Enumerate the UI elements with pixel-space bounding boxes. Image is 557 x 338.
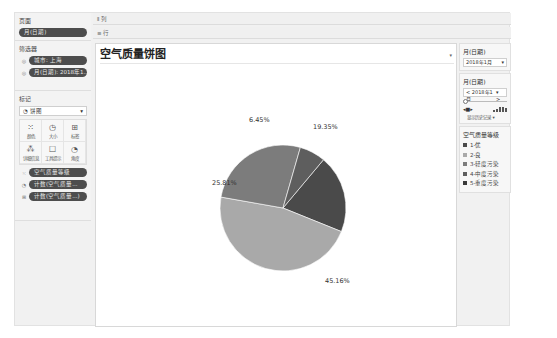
mark-field[interactable]: ◔ 计数(空气质量... [19,180,87,189]
tooltip-icon: ☐ [49,145,56,154]
pie-chart [96,44,458,328]
legend-swatch-icon [463,143,467,147]
legend-swatch-icon [463,162,467,166]
mark-field[interactable]: ⊞ 计数(空气质量...) [19,192,87,201]
angle-button[interactable]: ◔ 角度 [64,142,86,164]
prev-icon[interactable]: < [466,89,470,95]
field-pill[interactable]: 空气质量等级 [29,168,87,177]
color-icon: ⁙ [27,123,34,132]
playback-controls: ◂■▸ [463,106,507,112]
legend-swatch-icon [463,172,467,176]
filter-bullet-icon: ◎ [19,58,29,64]
columns-icon: ⫴ [97,16,99,22]
chevron-down-icon: ▾ [501,59,504,66]
chevron-down-icon: ▾ [80,107,83,115]
detail-button[interactable]: ⁂ 详细信息 [20,142,42,164]
legend-item[interactable]: 5-重度污染 [463,179,507,187]
legend-swatch-icon [463,153,467,157]
size-icon: ◷ [49,123,56,132]
filter-item[interactable]: ◎ 城市: 上海 [19,56,87,65]
mark-type-select[interactable]: ◔ 饼图 ▾ [19,106,87,116]
legend-item[interactable]: 4-中度污染 [463,170,507,178]
month-stepper[interactable]: < 2018年1月 ▾ > [463,88,507,97]
rows-shelf[interactable]: ≡ 行 [93,27,511,39]
legend-item[interactable]: 2-良 [463,151,507,159]
angle-field-icon: ◔ [19,182,29,188]
month-filter-dropdown-card: 月(日期) 2018年1月 ▾ [459,43,511,71]
marks-title: 标记 [19,94,87,103]
chart-canvas: 空气质量饼图 ▾ 19.35% 45.16% 25.81% 6.45% [95,43,457,327]
angle-icon: ◔ [71,145,78,154]
rows-icon: ≡ [97,30,102,36]
filter-item[interactable]: ◎ 月(日期): 2018年1... [19,68,87,77]
legend-label: 1-优 [470,141,481,149]
pie-label: 19.35% [313,123,338,131]
show-history-toggle[interactable]: 显示历史记录 ▾ [463,114,507,120]
detail-icon: ⁂ [27,145,35,154]
mark-field[interactable]: ⁙ 空气质量等级 [19,168,87,177]
label-field-icon: ⊞ [19,194,29,200]
label-icon: ⊞ [71,123,78,132]
legend-label: 3-轻度污染 [470,160,499,168]
month-slider[interactable] [463,99,507,104]
legend-items: 1-优2-良3-轻度污染4-中度污染5-重度污染 [463,141,507,187]
history-bars-icon [493,107,507,112]
legend-item[interactable]: 1-优 [463,141,507,149]
marks-card: 标记 ◔ 饼图 ▾ ⁙ 颜色 ◷ 大小 ⊞ 标签 ⁂ [15,91,91,221]
month-dropdown[interactable]: 2018年1月 ▾ [463,58,507,67]
pie-label: 6.45% [249,116,270,124]
filters-title: 筛选器 [19,44,87,53]
legend-title: 空气质量等级 [463,130,507,139]
playback-buttons[interactable]: ◂■▸ [463,106,473,112]
filters-card: 筛选器 ◎ 城市: 上海 ◎ 月(日期): 2018年1... [15,41,91,91]
pie-label: 45.16% [325,277,350,285]
tableau-workspace: 页面 月(日期) 筛选器 ◎ 城市: 上海 ◎ 月(日期): 2018年1...… [14,12,510,326]
pages-card: 页面 月(日期) [15,13,91,41]
legend-label: 4-中度污染 [470,170,499,178]
field-pill[interactable]: 计数(空气质量... [29,180,87,189]
filter-bullet-icon: ◎ [19,70,29,76]
legend-label: 2-良 [470,151,481,159]
color-button[interactable]: ⁙ 颜色 [20,120,42,142]
pages-title: 页面 [19,16,87,25]
size-button[interactable]: ◷ 大小 [42,120,64,142]
chevron-down-icon: ▾ [496,89,499,95]
right-panel: 月(日期) 2018年1月 ▾ 月(日期) < 2018年1月 ▾ > ◂■▸ … [459,43,511,327]
legend-item[interactable]: 3-轻度污染 [463,160,507,168]
color-field-icon: ⁙ [19,170,29,176]
legend-label: 5-重度污染 [470,179,499,187]
columns-shelf[interactable]: ⫴ 列 [93,13,511,25]
label-button[interactable]: ⊞ 标签 [64,120,86,142]
month-filter-slider-card: 月(日期) < 2018年1月 ▾ > ◂■▸ 显示历史记录 ▾ [459,73,511,124]
marks-buttons: ⁙ 颜色 ◷ 大小 ⊞ 标签 ⁂ 详细信息 ☐ 工具提示 [19,119,87,165]
tooltip-button[interactable]: ☐ 工具提示 [42,142,64,164]
pages-pill[interactable]: 月(日期) [19,28,87,37]
left-panel: 页面 月(日期) 筛选器 ◎ 城市: 上海 ◎ 月(日期): 2018年1...… [15,13,91,327]
filter-pill-city[interactable]: 城市: 上海 [29,56,87,65]
legend-swatch-icon [463,181,467,185]
pie-label: 25.81% [212,179,237,187]
slider-handle[interactable] [463,99,468,104]
field-pill[interactable]: 计数(空气质量...) [29,192,87,201]
legend-card: 空气质量等级 1-优2-良3-轻度污染4-中度污染5-重度污染 [459,126,511,193]
filter-pill-month[interactable]: 月(日期): 2018年1... [29,68,87,77]
